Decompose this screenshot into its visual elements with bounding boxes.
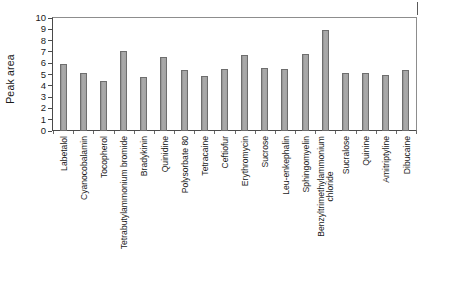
x-tick-mark — [93, 131, 94, 134]
bar — [281, 69, 288, 131]
x-tick-mark — [315, 131, 316, 134]
x-axis-ticks — [53, 131, 416, 135]
x-axis-label-text: Leu-enkephalin — [282, 136, 291, 195]
bar — [80, 73, 87, 131]
bar — [140, 77, 147, 131]
x-tick-mark — [134, 131, 135, 134]
bar — [402, 70, 409, 131]
x-tick-mark — [396, 131, 397, 134]
x-tick-mark — [335, 131, 336, 134]
x-tick-mark — [255, 131, 256, 134]
y-tick-label: 4 — [41, 81, 46, 91]
x-axis-label-text: Ceftiofur — [221, 136, 230, 168]
y-tick-label: 3 — [41, 92, 46, 102]
bar — [241, 55, 248, 131]
y-tick-label: 9 — [41, 24, 46, 34]
bar — [342, 73, 349, 131]
bar — [362, 73, 369, 131]
y-tick-label: 7 — [41, 47, 46, 57]
x-tick-mark — [73, 131, 74, 134]
x-tick-mark — [114, 131, 115, 134]
x-tick-mark — [356, 131, 357, 134]
x-axis-label-text: Polysorbate 80 — [181, 136, 190, 193]
y-tick-label: 2 — [41, 103, 46, 113]
x-tick-mark — [174, 131, 175, 134]
x-axis-label-text: Tetracaine — [201, 136, 210, 176]
y-tick-label: 10 — [35, 13, 46, 23]
bar-chart-figure: Peak area 109876543210 LabetalolCyanocob… — [0, 0, 450, 303]
bar — [181, 70, 188, 131]
x-axis-labels: LabetalolCyanocobalaminTocopherolTetrabu… — [53, 136, 416, 301]
bar — [120, 51, 127, 131]
x-tick-mark — [154, 131, 155, 134]
bar — [160, 57, 167, 131]
bar — [60, 64, 67, 131]
x-axis-label-text: Bradykinin — [140, 136, 149, 176]
y-tick-label: 8 — [41, 36, 46, 46]
x-axis-label-text: Benzyltrimethylammoniumchloride — [317, 136, 336, 237]
y-tick-label: 0 — [41, 126, 46, 136]
bar — [382, 75, 389, 132]
bar-series — [53, 18, 416, 131]
bar — [302, 54, 309, 131]
x-axis-label-text: Cyanocobalamin — [80, 136, 89, 200]
x-tick-mark — [214, 131, 215, 134]
bar — [322, 30, 329, 131]
x-axis-label-line: chloride — [327, 136, 336, 237]
x-tick-mark — [275, 131, 276, 134]
bar — [100, 81, 107, 131]
y-tick-label: 5 — [41, 70, 46, 80]
x-axis-label-text: Labetalol — [60, 136, 69, 171]
y-tick-label: 1 — [41, 115, 46, 125]
x-axis-label-text: Quinine — [362, 136, 371, 166]
x-axis-label-text: Tetrabutylammonium bromide — [120, 136, 129, 249]
x-axis-label-text: Dibucaine — [403, 136, 412, 174]
bar — [261, 68, 268, 131]
x-axis-label-text: Erythromycin — [241, 136, 250, 186]
y-axis-ticks: 109876543210 — [0, 0, 52, 303]
x-tick-mark — [295, 131, 296, 134]
x-axis-label-text: Amitriptyline — [382, 136, 391, 183]
x-axis-label-text: Sucrose — [261, 136, 270, 168]
bar — [201, 76, 208, 131]
x-axis-label-text: Quinidine — [161, 136, 170, 172]
x-tick-mark — [416, 131, 417, 134]
x-tick-mark — [194, 131, 195, 134]
y-tick-label: 6 — [41, 58, 46, 68]
bar — [221, 69, 228, 131]
corner-tick-mark — [417, 2, 418, 15]
x-axis-label-text: Sphingomyelin — [302, 136, 311, 192]
x-tick-mark — [235, 131, 236, 134]
x-axis-label-text: Tocopherol — [100, 136, 109, 178]
x-axis-label-text: Sucralose — [342, 136, 351, 174]
x-tick-mark — [376, 131, 377, 134]
x-tick-mark — [53, 131, 54, 134]
